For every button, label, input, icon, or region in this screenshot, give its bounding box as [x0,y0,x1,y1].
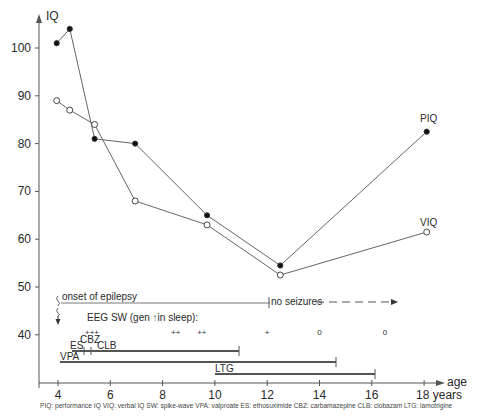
eeg-annotation: EEG SW (gen ↑in sleep): ++++++++00 [85,312,388,337]
y-tick-label: 90 [18,89,32,103]
viq-point [54,98,60,104]
y-tick-label: 100 [11,41,31,55]
eeg-mark: ++ [171,328,181,337]
x-axis: age 4681012141618 years [39,375,467,402]
x-tick-label: 14 [313,388,327,402]
piq-point [54,41,59,46]
x-tick-label: 16 [365,388,379,402]
viq-series-label: VIQ [420,217,437,228]
eeg-mark: ++ [197,328,207,337]
eeg-mark: + [265,328,270,337]
eeg-mark: 0 [317,328,322,337]
y-tick-label: 60 [18,232,32,246]
squiggle-icon [57,296,60,316]
x-axis-arrow-icon [436,380,445,386]
y-axis: IQ 405060708090100 [11,9,59,388]
y-tick-label: 80 [18,137,32,151]
x-tick-label: 18 years [416,388,462,402]
piq-series-label: PIQ [420,113,437,124]
piq-point [67,26,72,31]
down-arrow-icon [56,319,61,325]
y-tick-label: 70 [18,184,32,198]
x-tick-label: 6 [107,388,114,402]
viq-point [132,198,138,204]
viq-point [424,229,430,235]
viq-point [67,107,73,113]
viq-point [204,222,210,228]
viq-point [277,272,283,278]
right-arrow-icon [391,299,398,305]
eeg-mark: 0 [383,328,388,337]
viq-line [57,101,427,275]
iq-over-age-chart: IQ 405060708090100 age 4681012141618 yea… [0,0,478,420]
piq-line [57,29,427,266]
piq-point [133,141,138,146]
y-axis-arrow-icon [36,14,42,23]
x-tick-label: 12 [261,388,275,402]
y-tick-label: 40 [18,328,32,342]
piq-point [278,263,283,268]
clb-label: CLB [97,340,117,351]
y-tick-label: 50 [18,280,32,294]
piq-point [204,213,209,218]
y-axis-label: IQ [46,9,59,23]
ltg-label: LTG [215,363,234,374]
drug-bars: ES CBZ CLB VPA LTG [60,334,375,379]
series-layer [54,26,430,278]
x-axis-label: age [447,375,467,389]
x-tick-label: 4 [55,388,62,402]
piq-point [92,136,97,141]
x-tick-label: 10 [208,388,222,402]
footnote: PIQ: performance IQ VIQ: verbal IQ SW: s… [40,402,453,410]
piq-point [424,129,429,134]
no-seizures-label: no seizures [271,296,322,307]
onset-label: onset of epilepsy [62,291,137,302]
vpa-label: VPA [60,351,80,362]
viq-point [92,121,98,127]
x-tick-label: 8 [159,388,166,402]
eeg-label: EEG SW (gen ↑in sleep): [87,312,198,323]
